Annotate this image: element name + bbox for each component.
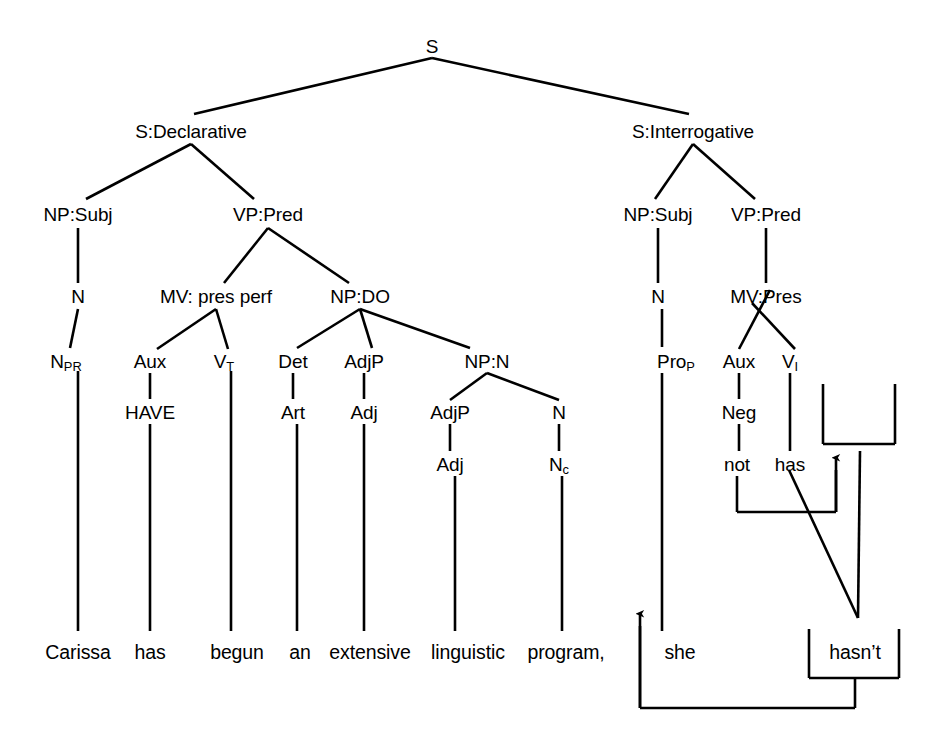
- terminal-word: has: [134, 643, 165, 663]
- terminal-word: an: [289, 643, 311, 663]
- node-decl-det: Det: [278, 352, 307, 371]
- node-decl-np-n: NP:N: [465, 352, 510, 371]
- node-decl-np-subj: NP:Subj: [43, 205, 112, 224]
- terminal-word: linguistic: [431, 643, 505, 663]
- node-decl-aux: Aux: [134, 352, 166, 371]
- node-interr-not: not: [724, 455, 750, 474]
- node-decl-n: N: [71, 287, 85, 306]
- syntax-tree-diagram: S S:Declarative S:Interrogative NP:Subj …: [0, 0, 931, 738]
- node-interr-mv: MV:Pres: [730, 287, 801, 306]
- node-decl-np-do: NP:DO: [330, 287, 390, 306]
- tree-branch-lines: [70, 58, 895, 631]
- node-decl-adj-1: Adj: [350, 403, 377, 422]
- node-s-declarative: S:Declarative: [135, 122, 247, 141]
- node-decl-vp-pred: VP:Pred: [233, 205, 303, 224]
- terminal-word: she: [664, 643, 695, 663]
- node-interr-prop: ProP: [657, 352, 695, 371]
- node-decl-mv: MV: pres perf: [160, 287, 272, 306]
- terminal-word: Carissa: [45, 643, 110, 663]
- node-interr-np-subj: NP:Subj: [623, 205, 692, 224]
- terminal-word: begun: [210, 643, 264, 663]
- node-interr-n: N: [651, 287, 665, 306]
- node-root-s: S: [426, 37, 439, 56]
- node-decl-vt: VT: [214, 352, 234, 371]
- node-interr-has: has: [775, 455, 805, 474]
- node-decl-adj-2: Adj: [436, 455, 463, 474]
- node-decl-npr: NPR: [50, 352, 82, 371]
- node-decl-art: Art: [281, 403, 305, 422]
- node-decl-have: HAVE: [125, 403, 175, 422]
- terminal-word: hasn’t: [829, 643, 880, 663]
- node-decl-adjp-1: AdjP: [344, 352, 384, 371]
- node-interr-neg: Neg: [722, 403, 757, 422]
- node-decl-adjp-2: AdjP: [430, 403, 470, 422]
- terminal-word: extensive: [329, 643, 410, 663]
- node-interr-vp-pred: VP:Pred: [731, 205, 801, 224]
- node-s-interrogative: S:Interrogative: [632, 122, 754, 141]
- node-interr-aux: Aux: [723, 352, 755, 371]
- node-interr-vi: VI: [782, 352, 798, 371]
- hasnt-linking-lines: [640, 451, 899, 708]
- node-decl-n-2: N: [552, 403, 566, 422]
- node-decl-nc: Nc: [549, 455, 569, 474]
- terminal-word: program,: [527, 643, 604, 663]
